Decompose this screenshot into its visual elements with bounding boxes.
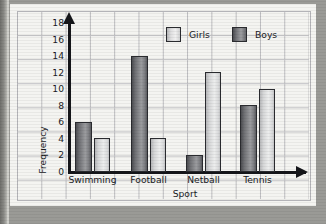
page-edge-shadow — [0, 0, 7, 224]
legend-item-girls: Girls — [166, 27, 210, 42]
chart-legend: Girls Boys — [0, 0, 326, 50]
bar-netball-girls — [205, 72, 222, 171]
legend-item-boys: Boys — [232, 27, 277, 42]
bar-football-girls — [150, 138, 167, 171]
bar-netball-boys — [186, 155, 203, 172]
legend-swatch-girls-icon — [166, 27, 181, 42]
page-edge-line — [7, 0, 9, 224]
x-tick-label-tennis: Tennis — [222, 174, 294, 185]
bar-swimming-girls — [94, 138, 111, 171]
bar-tennis-girls — [259, 89, 276, 172]
bar-chart: 181614121086420 Frequency Sport Girls Bo… — [0, 0, 326, 224]
legend-label-boys: Boys — [255, 29, 277, 40]
legend-swatch-boys-icon — [232, 27, 247, 42]
bar-tennis-boys — [240, 105, 257, 171]
legend-label-girls: Girls — [189, 29, 210, 40]
bar-swimming-boys — [75, 122, 92, 172]
x-axis-title: Sport — [0, 188, 326, 199]
bar-football-boys — [131, 56, 148, 172]
